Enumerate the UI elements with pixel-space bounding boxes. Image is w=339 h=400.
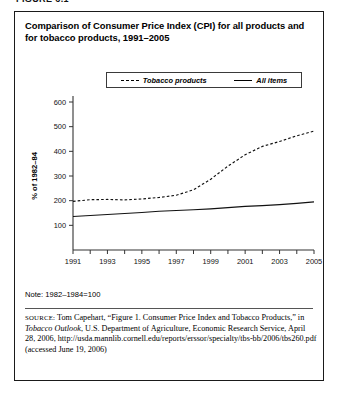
figure-container: Comparison of Consumer Price Index (CPI)… [14, 11, 324, 381]
x-axis-tick-label: 2001 [237, 257, 253, 266]
x-axis-tick-label: 1999 [202, 257, 218, 266]
series-line-all-items [73, 202, 314, 217]
figure-number-label: FIGURE 6.1 [16, 0, 69, 4]
source-prefix: SOURCE: [25, 314, 55, 321]
source-divider [25, 308, 313, 309]
chart-area: Tobacco products All items 1002003004005… [15, 58, 323, 296]
y-axis-tick-label: 500 [54, 122, 66, 131]
x-axis-tick-label: 2005 [306, 257, 322, 266]
chart-note: Note: 1982–1984=100 [25, 290, 100, 299]
y-axis-tick-label: 100 [54, 221, 66, 230]
y-axis-tick-label: 400 [54, 147, 66, 156]
y-axis-tick-label: 600 [54, 98, 66, 107]
page-title: Comparison of Consumer Price Index (CPI)… [25, 20, 313, 45]
y-axis-tick-label: 300 [54, 172, 66, 181]
series-line-tobacco-products [73, 131, 314, 201]
line-chart-plot: 1002003004005006001991199319951997199920… [15, 58, 323, 296]
source-publication-title: Tobacco Outlook [25, 324, 81, 333]
x-axis-tick-label: 1991 [65, 257, 81, 266]
x-axis-tick-label: 1997 [168, 257, 184, 266]
source-citation: SOURCE: Tom Capehart, “Figure 1. Consume… [25, 313, 317, 355]
y-axis-tick-label: 200 [54, 196, 66, 205]
x-axis-tick-label: 1995 [134, 257, 150, 266]
x-axis-tick-label: 1993 [99, 257, 115, 266]
source-text-part1: Tom Capehart, “Figure 1. Consumer Price … [55, 313, 304, 322]
x-axis-tick-label: 2003 [271, 257, 287, 266]
y-axis-title: % of 1982–84 [30, 151, 39, 199]
